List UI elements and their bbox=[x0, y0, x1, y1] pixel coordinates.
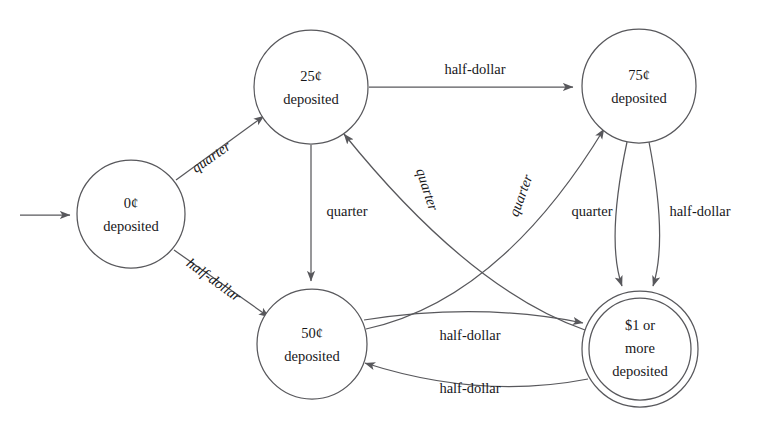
edge-label-fifty-to-onedollar: half-dollar bbox=[439, 327, 500, 343]
edge-label-seventyfive-to-onedollar-quarter: quarter bbox=[571, 203, 612, 219]
edge-seventyfive-to-onedollar-quarter[interactable] bbox=[615, 142, 627, 286]
state-label-onedollar-line2: more bbox=[625, 340, 655, 356]
state-circle-twentyfive[interactable] bbox=[254, 30, 368, 144]
edge-fifty-to-seventyfive[interactable] bbox=[366, 129, 604, 329]
edge-label-twentyfive-to-fifty: quarter bbox=[326, 203, 367, 219]
edge-onedollar-to-twentyfive[interactable] bbox=[344, 134, 585, 330]
state-circle-fifty[interactable] bbox=[257, 289, 367, 399]
state-diagram-canvas: 0¢ deposited 25¢ deposited 50¢ deposited… bbox=[0, 0, 757, 424]
fsm-svg: 0¢ deposited 25¢ deposited 50¢ deposited… bbox=[0, 0, 757, 424]
edge-label-fifty-to-seventyfive: quarter bbox=[505, 172, 535, 219]
edge-fifty-to-onedollar[interactable] bbox=[364, 312, 583, 323]
edge-label-onedollar-to-fifty: half-dollar bbox=[439, 380, 500, 396]
state-label-twentyfive-line1: 25¢ bbox=[300, 68, 322, 84]
state-label-onedollar-line1: $1 or bbox=[625, 317, 655, 333]
state-label-fifty-line2: deposited bbox=[284, 348, 340, 364]
edge-label-seventyfive-to-onedollar-halfdollar: half-dollar bbox=[669, 203, 730, 219]
state-fifty-cents-deposited[interactable]: 50¢ deposited bbox=[257, 289, 367, 399]
state-label-seventyfive-line2: deposited bbox=[611, 90, 667, 106]
state-label-zero-line1: 0¢ bbox=[124, 195, 139, 211]
state-label-twentyfive-line2: deposited bbox=[283, 91, 339, 107]
state-circle-seventyfive[interactable] bbox=[582, 29, 696, 143]
edge-label-twentyfive-to-seventyfive: half-dollar bbox=[444, 61, 505, 77]
state-zero-cents-deposited[interactable]: 0¢ deposited bbox=[77, 160, 185, 268]
state-label-zero-line2: deposited bbox=[103, 218, 159, 234]
state-seventyfive-cents-deposited[interactable]: 75¢ deposited bbox=[582, 29, 696, 143]
state-one-dollar-or-more-deposited[interactable]: $1 or more deposited bbox=[582, 291, 698, 407]
state-circle-zero[interactable] bbox=[77, 160, 185, 268]
state-label-fifty-line1: 50¢ bbox=[301, 325, 323, 341]
edge-seventyfive-to-onedollar-halfdollar[interactable] bbox=[649, 142, 660, 286]
state-label-seventyfive-line1: 75¢ bbox=[628, 67, 650, 83]
edge-label-zero-to-fifty: half-dollar bbox=[184, 255, 245, 305]
edge-label-zero-to-twentyfive: quarter bbox=[189, 137, 234, 175]
state-twentyfive-cents-deposited[interactable]: 25¢ deposited bbox=[254, 30, 368, 144]
state-label-onedollar-line3: deposited bbox=[612, 363, 668, 379]
edge-label-onedollar-to-twentyfive: quarter bbox=[413, 166, 442, 213]
